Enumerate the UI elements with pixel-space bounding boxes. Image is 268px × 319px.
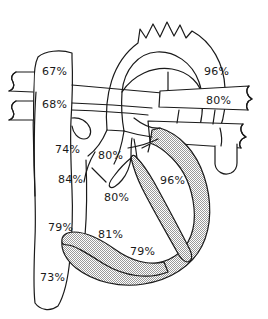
saturation-label-ductus-arteriosus: 80%	[98, 150, 123, 161]
saturation-label-inferior-vena-cava: 73%	[40, 272, 65, 283]
pulmonary-vein-inflow-line	[124, 131, 152, 137]
saturation-label-superior-vena-cava-lower: 68%	[42, 99, 67, 110]
saturation-label-pulmonary-artery: 80%	[206, 95, 231, 106]
right-atrial-appendage	[72, 118, 91, 139]
saturation-label-right-atrium-mid: 84%	[58, 174, 83, 185]
saturation-label-right-atrium-inferior: 79%	[48, 222, 73, 233]
saturation-label-right-ventricle: 80%	[104, 192, 129, 203]
saturation-label-left-ventricle: 96%	[160, 175, 185, 186]
band-connector-tick-1	[177, 110, 179, 123]
saturation-label-right-ventricle-apex: 79%	[130, 246, 155, 257]
saturation-label-superior-vena-cava: 67%	[42, 66, 67, 77]
trunk-branch-diagonal	[92, 168, 106, 182]
saturation-label-tricuspid-inflow: 81%	[98, 229, 123, 240]
trunk-branch-down	[85, 160, 87, 236]
saturation-label-aortic-arch: 96%	[204, 66, 229, 77]
saturation-label-right-atrium: 74%	[55, 144, 80, 155]
septum-fork-left	[109, 158, 131, 188]
vessel-stump-lower-right	[215, 144, 237, 174]
heart-saturation-diagram: 67% 68% 74% 84% 79% 73% 80% 80% 81% 79% …	[0, 0, 268, 319]
